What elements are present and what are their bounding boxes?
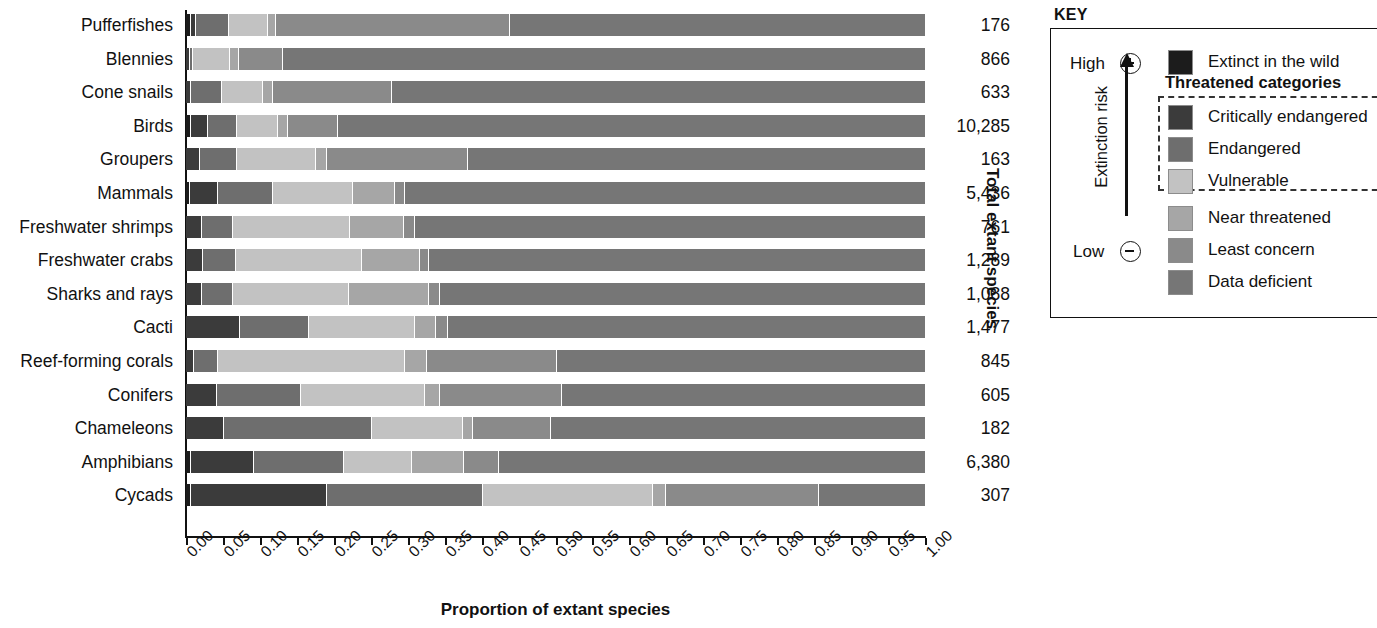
bar-segment-en xyxy=(195,14,228,36)
axis-tick-label: 0.90 xyxy=(848,527,882,561)
legend-item[interactable]: Data deficient xyxy=(1168,266,1312,298)
bar-segment-lc xyxy=(435,316,447,338)
legend-item[interactable]: Extinct in the wild xyxy=(1168,46,1339,78)
category-label: Conifers xyxy=(0,382,182,408)
bar-segment-dd xyxy=(414,216,925,238)
bar-segment-dd xyxy=(467,148,925,170)
bar-segment-nt xyxy=(424,384,439,406)
bar-segment-dd xyxy=(282,48,925,70)
bar-segment-en xyxy=(207,115,237,137)
bar-segment-vu xyxy=(236,115,277,137)
axis-tick-label: 0.05 xyxy=(220,527,254,561)
extinction-risk-axis-label: Extinction risk xyxy=(1092,86,1111,188)
bar-segment-vu xyxy=(221,81,262,103)
bar-segment-dd xyxy=(818,484,925,506)
table-row: Pufferfishes176 xyxy=(0,12,1010,38)
bar-segment-nt xyxy=(229,48,238,70)
bar-segment-dd xyxy=(447,316,925,338)
category-label: Groupers xyxy=(0,146,182,172)
bar-segment-dd xyxy=(509,14,925,36)
bar-segment-cr xyxy=(186,350,193,372)
axis-tick-label: 0.70 xyxy=(700,527,734,561)
bar-segment-nt xyxy=(267,14,276,36)
bar-segment-cr xyxy=(186,249,202,271)
stacked-bar xyxy=(186,81,925,103)
axis-tick-label: 0.55 xyxy=(589,527,623,561)
table-row: Amphibians6,380 xyxy=(0,449,1010,475)
axis-tick-label: 0.00 xyxy=(183,527,217,561)
stacked-bar xyxy=(186,14,925,36)
axis-tick-label: 0.30 xyxy=(405,527,439,561)
total-extant-species-value: 182 xyxy=(936,415,1010,441)
bar-segment-cr xyxy=(189,182,217,204)
stacked-bar xyxy=(186,249,925,271)
legend-swatch-icon xyxy=(1168,169,1193,194)
axis-tick-label: 1.00 xyxy=(922,527,956,561)
table-row: Birds10,285 xyxy=(0,113,1010,139)
bar-segment-dd xyxy=(428,249,925,271)
table-row: Chameleons182 xyxy=(0,415,1010,441)
bar-segment-lc xyxy=(238,48,282,70)
stacked-bar xyxy=(186,384,925,406)
category-label: Chameleons xyxy=(0,415,182,441)
risk-low-minus-icon xyxy=(1120,241,1141,262)
bar-segment-cr xyxy=(190,115,207,137)
legend-item[interactable]: Near threatened xyxy=(1168,202,1331,234)
bar-segment-dd xyxy=(337,115,925,137)
legend-item[interactable]: Vulnerable xyxy=(1168,165,1289,197)
legend-item[interactable]: Least concern xyxy=(1168,234,1315,266)
table-row: Cone snails633 xyxy=(0,79,1010,105)
bar-segment-lc xyxy=(326,148,466,170)
bar-segment-cr xyxy=(186,316,239,338)
stacked-bar xyxy=(186,216,925,238)
stacked-bar xyxy=(186,417,925,439)
legend-swatch-icon xyxy=(1168,105,1193,130)
right-axis-title: Total extant species xyxy=(982,168,1002,329)
bar-segment-vu xyxy=(343,451,412,473)
table-row: Cycads307 xyxy=(0,482,1010,508)
stacked-bar xyxy=(186,451,925,473)
bar-segment-vu xyxy=(217,350,404,372)
axis-tick-label: 0.75 xyxy=(737,527,771,561)
bar-segment-dd xyxy=(404,182,925,204)
category-label: Sharks and rays xyxy=(0,281,182,307)
bar-segment-vu xyxy=(228,14,266,36)
category-label: Blennies xyxy=(0,46,182,72)
bar-segment-lc xyxy=(439,384,561,406)
bar-segment-vu xyxy=(482,484,652,506)
table-row: Freshwater crabs1,289 xyxy=(0,247,1010,273)
axis-tick-label: 0.20 xyxy=(331,527,365,561)
total-extant-species-value: 605 xyxy=(936,382,1010,408)
axis-tick-label: 0.95 xyxy=(885,527,919,561)
bar-segment-dd xyxy=(550,417,925,439)
bar-segment-en xyxy=(217,182,272,204)
bar-segment-vu xyxy=(192,48,229,70)
bar-segment-vu xyxy=(236,148,314,170)
legend-swatch-icon xyxy=(1168,137,1193,162)
figure-root: Pufferfishes176Blennies866Cone snails633… xyxy=(0,0,1377,628)
risk-low-label: Low xyxy=(1073,242,1104,262)
axis-tick-label: 0.10 xyxy=(257,527,291,561)
bar-segment-en xyxy=(193,350,217,372)
legend-item[interactable]: Endangered xyxy=(1168,133,1301,165)
bar-segment-cr xyxy=(186,216,201,238)
bar-segment-nt xyxy=(462,417,472,439)
total-extant-species-value: 307 xyxy=(936,482,1010,508)
legend-label: Endangered xyxy=(1208,139,1301,159)
legend-label: Data deficient xyxy=(1208,272,1312,292)
extinction-risk-arrow-icon xyxy=(1125,66,1128,216)
legend-item[interactable]: Critically endangered xyxy=(1168,101,1368,133)
x-axis-title: Proportion of extant species xyxy=(186,600,925,620)
bar-segment-nt xyxy=(352,182,395,204)
bar-segment-dd xyxy=(391,81,925,103)
bar-segment-cr xyxy=(186,417,223,439)
bar-segment-nt xyxy=(652,484,665,506)
table-row: Conifers605 xyxy=(0,382,1010,408)
axis-tick-label: 0.35 xyxy=(442,527,476,561)
bar-segment-nt xyxy=(315,148,327,170)
axis-tick-label: 0.60 xyxy=(626,527,660,561)
stacked-bar-chart: Pufferfishes176Blennies866Cone snails633… xyxy=(0,0,1010,628)
bar-segment-lc xyxy=(463,451,498,473)
axis-tick-label: 0.15 xyxy=(294,527,328,561)
bar-segment-vu xyxy=(308,316,414,338)
